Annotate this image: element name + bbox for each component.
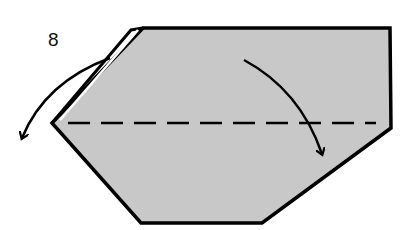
paper-shape	[52, 28, 391, 223]
origami-diagram	[0, 0, 405, 230]
